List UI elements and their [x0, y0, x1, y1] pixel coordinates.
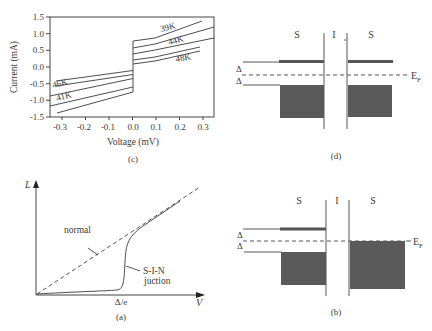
curve-labels: 39K 44K 48K 46K 41K — [51, 20, 192, 103]
plot-frame — [50, 17, 214, 117]
panel-d-band-diagram: S I S Δ Δ EF (d) — [236, 29, 421, 161]
x-tick-label: -0.3 — [53, 122, 68, 132]
curve-label-48k: 48K — [175, 51, 192, 64]
region-label-s-right: S — [370, 195, 376, 206]
y-tick-labels: 1.5 1.0 0.5 0.0 -0.5 -1.0 -1.5 — [30, 12, 45, 122]
y-axis-arrow-icon — [33, 180, 39, 188]
curve-label-46k: 46K — [51, 76, 69, 90]
panel-caption-c: (c) — [128, 154, 138, 164]
y-tick-label: 1.5 — [33, 12, 45, 22]
panel-b-band-diagram: S I S Δ Δ EF (b) — [237, 195, 423, 317]
sin-label-line1: S-I-N — [143, 266, 165, 276]
filled-band-right — [350, 241, 405, 289]
iv-curves — [50, 21, 214, 113]
delta-label-upper: Δ — [237, 230, 243, 240]
y-axis-label: Current (mA) — [9, 41, 20, 93]
panel-caption-d: (d) — [331, 151, 342, 161]
y-tick-label: -0.5 — [30, 79, 45, 89]
y-tick-label: -1.5 — [30, 112, 45, 122]
filled-band-left — [281, 252, 326, 285]
y-tick-label: 0.0 — [33, 62, 45, 72]
x-tick-labels: -0.3 -0.2 -0.1 0.0 0.1 0.2 0.3 — [53, 122, 209, 132]
region-label-s-left: S — [294, 29, 300, 40]
x-tick-label: -0.1 — [101, 122, 115, 132]
x-axis-label: Voltage (mV) — [107, 137, 159, 148]
x-tick-label: -0.2 — [77, 122, 91, 132]
sin-leader-line — [126, 266, 140, 271]
region-label-i: I — [332, 29, 335, 40]
panel-c-iv-chart: 1.5 1.0 0.5 0.0 -0.5 -1.0 -1.5 -0.3 -0.2… — [9, 12, 214, 164]
gap-voltage-label: Δ/e — [115, 297, 127, 307]
dot-mark — [344, 39, 346, 41]
y-tick-label: 0.5 — [33, 45, 45, 55]
figure-canvas: 1.5 1.0 0.5 0.0 -0.5 -1.0 -1.5 -0.3 -0.2… — [0, 0, 432, 331]
delta-label-upper: Δ — [236, 64, 242, 74]
fermi-label: EF — [411, 70, 421, 84]
normal-line — [37, 187, 200, 294]
delta-label-lower: Δ — [237, 241, 243, 251]
curve-label-39k: 39K — [159, 20, 177, 34]
x-tick-label: 0.0 — [127, 122, 139, 132]
y-axis-label: L — [24, 179, 31, 190]
curve-label-44k: 44K — [167, 33, 185, 47]
panel-caption-a: (a) — [116, 312, 126, 322]
filled-band-left — [280, 85, 324, 118]
y-tick-label: 1.0 — [33, 29, 45, 39]
x-tick-label: 0.1 — [150, 122, 161, 132]
panel-a-sin-sketch: L V Δ/e normal S-I-N juction (a) — [24, 179, 205, 322]
y-ticks — [46, 17, 50, 117]
region-label-i: I — [335, 195, 338, 206]
panel-caption-b: (b) — [331, 307, 342, 317]
region-label-s-left: S — [296, 195, 302, 206]
y-tick-label: -1.0 — [30, 95, 45, 105]
x-tick-label: 0.3 — [197, 122, 209, 132]
x-tick-label: 0.2 — [174, 122, 185, 132]
sin-label-line2: juction — [143, 276, 171, 286]
x-axis-label: V — [196, 297, 204, 308]
delta-label-lower: Δ — [236, 76, 242, 86]
region-label-s-right: S — [368, 29, 374, 40]
normal-leader-line — [88, 248, 98, 255]
normal-label: normal — [64, 225, 91, 235]
curve-48k-neg — [56, 71, 133, 82]
fermi-label: EF — [413, 236, 423, 250]
filled-band-right — [348, 85, 392, 117]
